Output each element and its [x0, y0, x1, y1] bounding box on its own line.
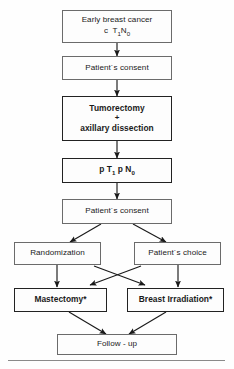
edge-irradiation-to-followup: [129, 312, 166, 334]
pathology-stage-label: p T1 p N0: [99, 164, 135, 177]
edge-consent2-to-randomization: [70, 224, 101, 242]
node-follow-up: Follow - up: [57, 334, 177, 355]
early-breast-cancer-stage: c T1N0: [104, 26, 130, 38]
node-mastectomy: Mastectomy*: [14, 288, 107, 312]
edge-mastectomy-to-followup: [69, 312, 106, 334]
node-breast-irradiation: Breast Irradiation*: [127, 288, 224, 312]
mastectomy-label: Mastectomy*: [34, 294, 86, 305]
patient-choice-label: Patient´s choice: [148, 248, 206, 259]
bottom-divider: [8, 360, 225, 361]
node-early-breast-cancer: Early breast cancer c T1N0: [62, 10, 172, 43]
follow-up-label: Follow - up: [97, 339, 137, 350]
tumorectomy-plus: +: [115, 114, 120, 122]
patient-consent-1-label: Patient´s consent: [85, 63, 148, 74]
flowchart-canvas: Early breast cancer c T1N0 Patient´s con…: [0, 0, 234, 369]
node-pathology-stage: p T1 p N0: [62, 158, 172, 183]
early-breast-cancer-label: Early breast cancer: [82, 15, 153, 26]
node-patient-consent-1: Patient´s consent: [62, 56, 172, 80]
node-patient-choice: Patient´s choice: [134, 242, 221, 265]
edge-consent2-to-choice: [133, 224, 166, 242]
edge-choice-to-mastectomy: [90, 266, 141, 285]
edge-randomization-to-irradiation: [94, 266, 145, 285]
randomization-label: Randomization: [30, 248, 85, 259]
patient-consent-2-label: Patient´s consent: [85, 206, 148, 217]
node-randomization: Randomization: [14, 242, 101, 265]
node-tumorectomy: Tumorectomy + axillary dissection: [62, 96, 172, 141]
node-patient-consent-2: Patient´s consent: [62, 199, 172, 224]
axillary-dissection-label: axillary dissection: [80, 123, 154, 134]
breast-irradiation-label: Breast Irradiation*: [139, 294, 213, 305]
